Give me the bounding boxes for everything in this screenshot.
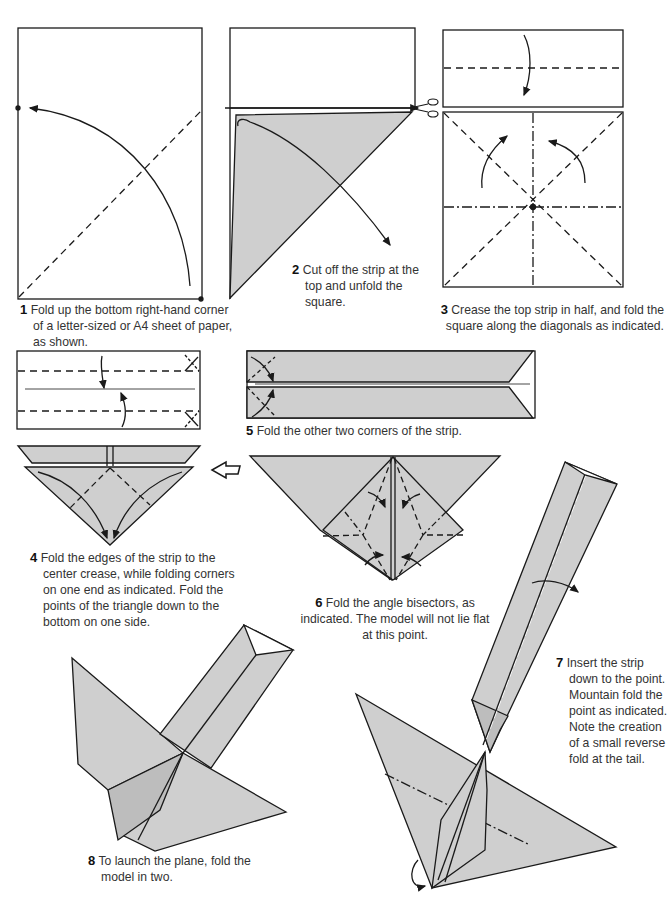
step-1-caption: 1 Fold up the bottom right-hand corner o… (20, 302, 233, 350)
hollow-arrow-icon (212, 462, 240, 478)
step-4-strip-diagram (17, 351, 200, 429)
step-3-diagram (443, 30, 623, 287)
step-6-caption: 6 Fold the angle bisectors, as indicated… (300, 595, 490, 643)
step-8-caption: 8 To launch the plane, fold the model in… (88, 853, 271, 885)
step-6-diagram (250, 456, 500, 580)
step-3-caption: 3 Crease the top strip in half, and fold… (428, 302, 664, 334)
step-2-diagram (225, 28, 418, 299)
step-5-diagram (247, 351, 535, 418)
step-8-diagram (72, 625, 293, 851)
step-5-caption: 5 Fold the other two corners of the stri… (246, 423, 546, 439)
step-7-caption: 7 Insert the strip down to the point. Mo… (556, 655, 671, 767)
step-2-caption: 2 Cut off the strip at the top and unfol… (292, 262, 429, 310)
step-1-diagram (16, 28, 203, 301)
step-4-triangle-diagram (18, 446, 200, 545)
step-4-caption: 4 Fold the edges of the strip to the cen… (30, 550, 243, 630)
